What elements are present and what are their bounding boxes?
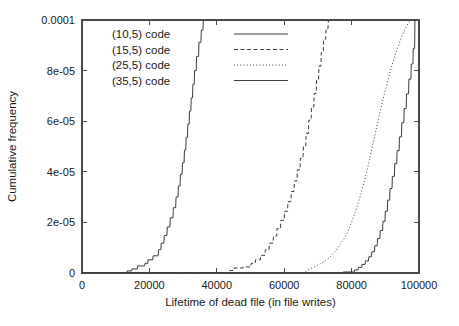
x-tick-label: 60000 <box>269 279 300 291</box>
series-line-2 <box>82 20 412 273</box>
x-tick-label: 40000 <box>202 279 233 291</box>
legend-label-1: (15,5) code <box>112 44 170 56</box>
cumulative-frequency-chart: 02000040000600008000010000002e-054e-056e… <box>0 0 459 326</box>
y-tick-label: 0 <box>69 267 75 279</box>
y-tick-label: 8e-05 <box>47 65 75 77</box>
y-axis-title: Cumulative frequency <box>6 91 18 202</box>
series-line-1 <box>82 20 329 273</box>
x-tick-label: 0 <box>79 279 85 291</box>
x-tick-label: 100000 <box>401 279 438 291</box>
x-tick-label: 80000 <box>336 279 367 291</box>
y-tick-label: 0.0001 <box>41 14 75 26</box>
legend-label-0: (10,5) code <box>112 28 170 40</box>
series-line-0 <box>82 20 204 273</box>
y-tick-label: 2e-05 <box>47 216 75 228</box>
plot-frame <box>82 20 419 273</box>
x-tick-label: 20000 <box>134 279 165 291</box>
chart-figure: 02000040000600008000010000002e-054e-056e… <box>0 0 459 326</box>
series-line-3 <box>82 20 416 273</box>
y-tick-label: 6e-05 <box>47 115 75 127</box>
legend-label-3: (35,5) code <box>112 75 170 87</box>
legend-label-2: (25,5) code <box>112 59 170 71</box>
y-tick-label: 4e-05 <box>47 166 75 178</box>
x-axis-title: Lifetime of dead file (in file writes) <box>165 296 336 308</box>
